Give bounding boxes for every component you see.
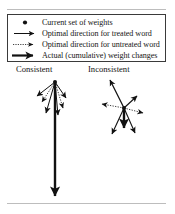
vector-untreated-left [102, 104, 124, 108]
vector-treated-upleft [110, 80, 124, 108]
vector-treated-left-upper [37, 82, 55, 96]
vector-treated-downright [124, 108, 135, 133]
figure-bottom-rule [7, 203, 166, 204]
vector-diagram-svg [0, 0, 175, 214]
origin-dot-inconsistent [122, 106, 126, 110]
vector-treated-left-lower [46, 82, 55, 113]
panel-inconsistent [102, 80, 143, 134]
figure-container: Current set of weights Optimal direction… [0, 0, 175, 214]
origin-dot-consistent [53, 80, 57, 84]
vector-treated-downleft [112, 108, 124, 134]
vector-untreated-right [124, 108, 143, 113]
vector-treated-upright [124, 96, 137, 108]
panel-consistent [37, 80, 66, 196]
vector-untreated-left-mid [42, 82, 55, 102]
